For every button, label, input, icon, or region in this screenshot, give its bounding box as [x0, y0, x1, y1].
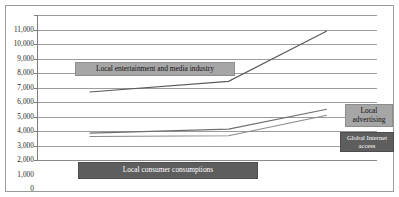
y-axis-tick-label: 2,000 [1, 156, 34, 164]
y-axis-tick-label: 0 [1, 185, 34, 193]
y-axis-tick-label: 11,000 [1, 26, 34, 34]
y-axis-tick-label: 3,000 [1, 142, 34, 150]
y-axis-tick-label: 10,000 [1, 40, 34, 48]
y-axis-tick-label: 7,000 [1, 84, 34, 92]
chart-container: 11,000 10,000 9,000 8,000 7,000 6,000 5,… [0, 0, 399, 197]
legend-callout-label: Local advertising [349, 107, 389, 124]
legend-callout-internet: Global Internet access [340, 132, 394, 152]
y-axis-tick-label: 9,000 [1, 55, 34, 63]
series-line-internet [90, 115, 327, 136]
legend-callout-label: Local entertainment and media industry [96, 65, 214, 74]
series-layer [37, 15, 376, 161]
legend-callout-entertainment: Local entertainment and media industry [75, 62, 235, 76]
series-line-advertising [90, 109, 327, 133]
y-axis-tick-label: 4,000 [1, 127, 34, 135]
y-axis-tick-label: 6,000 [1, 98, 34, 106]
y-axis-tick-label: 1,000 [1, 171, 34, 179]
y-axis-tick-label: 8,000 [1, 69, 34, 77]
legend-callout-advertising: Local advertising [345, 104, 393, 127]
y-axis-tick-label: 5,000 [1, 113, 34, 121]
legend-callout-label: Local consumer consumptions [123, 166, 213, 175]
legend-callout-label: Global Internet access [344, 134, 390, 150]
y-axis: 11,000 10,000 9,000 8,000 7,000 6,000 5,… [0, 15, 34, 161]
legend-callout-consumer: Local consumer consumptions [78, 162, 258, 179]
